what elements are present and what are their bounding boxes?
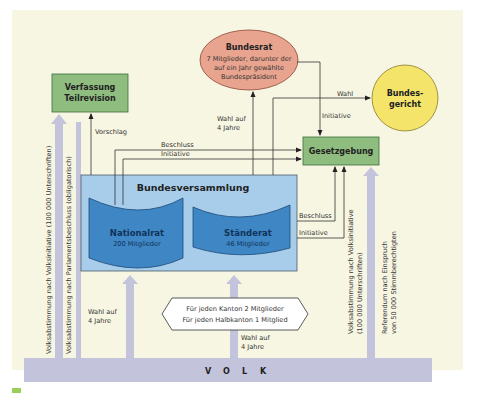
svg-text:Wahl: Wahl bbox=[337, 90, 353, 98]
svg-text:Bundesrat: Bundesrat bbox=[226, 43, 273, 52]
svg-text:Bundesversammlung: Bundesversammlung bbox=[137, 182, 249, 193]
svg-text:L: L bbox=[242, 367, 247, 376]
svg-text:Vorschlag: Vorschlag bbox=[95, 128, 127, 136]
svg-text:Verfassung: Verfassung bbox=[65, 83, 116, 92]
svg-text:Bundes-: Bundes- bbox=[387, 89, 424, 98]
gesetzgebung-box: Gesetzgebung bbox=[303, 137, 379, 165]
svg-text:Referendum nach Einspruch: Referendum nach Einspruch bbox=[381, 241, 389, 334]
svg-text:Nationalrat: Nationalrat bbox=[110, 228, 164, 238]
svg-text:4 Jahre: 4 Jahre bbox=[88, 317, 111, 325]
svg-text:Initiative: Initiative bbox=[161, 150, 190, 158]
figure-marker bbox=[12, 388, 21, 393]
bundesgericht-node: Bundes- gericht bbox=[372, 65, 438, 131]
svg-text:Bundespräsident: Bundespräsident bbox=[221, 73, 277, 81]
svg-text:Wahl auf: Wahl auf bbox=[241, 334, 270, 342]
svg-text:auf ein Jahr gewählte: auf ein Jahr gewählte bbox=[214, 64, 284, 72]
diagram-canvas: V O L K Verfassung Teilrevision Bundesra… bbox=[0, 0, 479, 396]
svg-text:Volksabstimmung nach Volksinit: Volksabstimmung nach Volksinitiative (10… bbox=[45, 146, 53, 354]
svg-text:4 Jahre: 4 Jahre bbox=[217, 124, 240, 132]
svg-text:Teilrevision: Teilrevision bbox=[64, 94, 116, 103]
svg-text:7 Mitglieder, darunter der: 7 Mitglieder, darunter der bbox=[206, 55, 291, 63]
svg-text:K: K bbox=[260, 367, 267, 376]
svg-text:Initiative: Initiative bbox=[299, 229, 328, 237]
svg-text:Für jeden Kanton 2 Mitglieder: Für jeden Kanton 2 Mitglieder bbox=[186, 305, 284, 313]
svg-text:Volksabstimmung nach Volksinit: Volksabstimmung nach Volksinitiative bbox=[347, 209, 355, 334]
svg-text:O: O bbox=[223, 367, 230, 376]
svg-text:Ständerat: Ständerat bbox=[224, 228, 272, 238]
svg-text:Gesetzgebung: Gesetzgebung bbox=[309, 147, 374, 156]
svg-text:Wahl auf: Wahl auf bbox=[217, 115, 246, 123]
svg-text:Volksabstimmung nach Parlament: Volksabstimmung nach Parlamentsbeschluss… bbox=[65, 156, 73, 354]
svg-text:(100 000 Unterschriften): (100 000 Unterschriften) bbox=[356, 252, 364, 334]
svg-text:200 Mitglieder: 200 Mitglieder bbox=[113, 240, 161, 248]
svg-text:Für jeden Halbkanton 1 Mitglie: Für jeden Halbkanton 1 Mitglied bbox=[182, 316, 287, 324]
svg-text:4 Jahre: 4 Jahre bbox=[241, 343, 264, 351]
svg-text:V: V bbox=[205, 367, 212, 376]
svg-text:Wahl auf: Wahl auf bbox=[88, 308, 117, 316]
verfassung-teilrevision-box: Verfassung Teilrevision bbox=[52, 74, 128, 112]
svg-text:gericht: gericht bbox=[389, 100, 421, 109]
bundesrat-node: Bundesrat 7 Mitglieder, darunter der auf… bbox=[200, 30, 298, 90]
svg-text:Initiative: Initiative bbox=[322, 112, 351, 120]
kanton-note: Für jeden Kanton 2 Mitglieder Für jeden … bbox=[162, 298, 308, 330]
svg-text:46 Mitglieder: 46 Mitglieder bbox=[226, 240, 270, 248]
svg-text:Beschluss: Beschluss bbox=[299, 212, 332, 220]
svg-text:von 50 000 Stimmberechtigten: von 50 000 Stimmberechtigten bbox=[390, 231, 398, 334]
svg-text:Beschluss: Beschluss bbox=[161, 141, 194, 149]
